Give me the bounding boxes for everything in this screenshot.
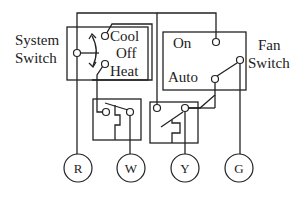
terminal-w: W — [117, 154, 145, 182]
cool-relay-in-terminal — [154, 105, 161, 112]
terminal-g: G — [225, 154, 253, 182]
auto-label: Auto — [168, 69, 198, 85]
heat-relay-in-terminal — [103, 109, 110, 116]
terminal-w-label: W — [125, 161, 138, 176]
off-label: Off — [116, 45, 137, 61]
fan-switch-label-line1: Fan — [258, 37, 281, 53]
system-common-terminal — [74, 50, 81, 57]
on-label: On — [173, 35, 192, 51]
terminal-y-label: Y — [180, 161, 190, 176]
terminal-g-label: G — [234, 161, 243, 176]
cool-label: Cool — [110, 28, 139, 44]
fan-switch-label-line2: Switch — [248, 55, 290, 71]
terminal-y: Y — [171, 154, 199, 182]
fan-common-terminal — [237, 57, 244, 64]
cool-relay-out-terminal — [182, 105, 189, 112]
system-switch-label-line1: System — [15, 32, 60, 48]
wiring-diagram: R W Y G System Switch Cool Off Heat On A… — [0, 0, 305, 197]
terminal-r: R — [64, 154, 92, 182]
heat-relay-out-terminal — [127, 109, 134, 116]
heat-relay-box — [93, 99, 141, 140]
heat-label: Heat — [110, 63, 139, 79]
terminal-r-label: R — [74, 161, 83, 176]
auto-terminal — [212, 76, 219, 83]
fan-switch-blade — [217, 63, 237, 76]
heat-terminal — [102, 61, 109, 68]
on-terminal — [213, 39, 220, 46]
system-switch-label-line2: Switch — [15, 50, 57, 66]
selector-arrow-icon — [92, 36, 96, 66]
heat-relay — [93, 99, 141, 140]
cool-terminal — [102, 33, 109, 40]
